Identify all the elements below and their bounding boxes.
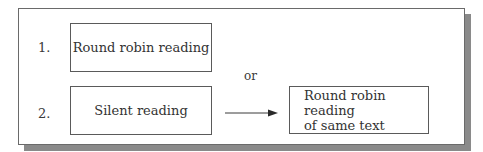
box-round-robin-same-text: Round robin reading of same text <box>289 86 429 134</box>
box-round-robin-reading: Round robin reading <box>70 23 212 72</box>
arrow-right-icon <box>224 106 280 120</box>
result-line-1: Round robin reading <box>304 88 428 118</box>
box-label-silent: Silent reading <box>94 103 187 118</box>
item-number-1: 1. <box>38 41 50 55</box>
item-number-2: 2. <box>38 107 50 121</box>
box-silent-reading: Silent reading <box>70 86 212 135</box>
result-line-2: of same text <box>304 118 428 133</box>
box-label-round-robin: Round robin reading <box>73 40 210 55</box>
or-label: or <box>244 69 257 83</box>
